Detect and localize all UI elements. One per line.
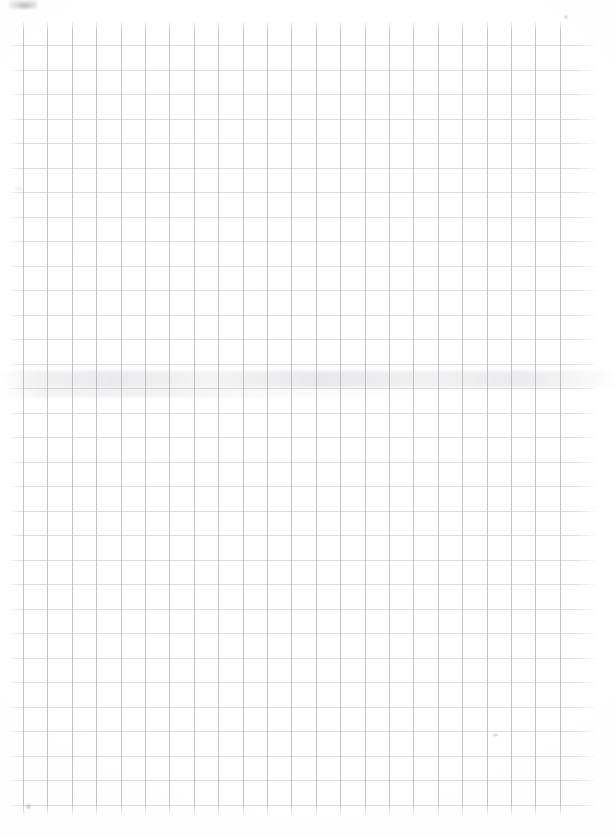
grid-line-vertical	[438, 22, 439, 815]
grid-line-horizontal	[10, 241, 595, 242]
grid-line-vertical	[487, 22, 488, 815]
grid-line-horizontal	[10, 388, 595, 389]
grid-line-vertical	[121, 22, 122, 815]
grid-line-vertical	[243, 22, 244, 815]
grid-line-horizontal	[10, 70, 595, 71]
grid-line-vertical	[23, 22, 24, 815]
grid-line-vertical	[560, 22, 561, 815]
grid-line-horizontal	[10, 45, 595, 46]
grid-line-vertical	[462, 22, 463, 815]
speck-bottom-left	[25, 803, 32, 810]
speck-top-right	[563, 14, 569, 20]
paper-surface	[0, 0, 616, 838]
grid-line-vertical	[316, 22, 317, 815]
grid-line-horizontal	[10, 143, 595, 144]
grid-line-vertical	[511, 22, 512, 815]
corner-smudge-top-left	[9, 0, 37, 9]
grid-line-horizontal	[10, 217, 595, 218]
grid-line-vertical	[145, 22, 146, 815]
grid-line-vertical	[267, 22, 268, 815]
speck-upper-left	[14, 186, 24, 191]
grid-line-vertical	[169, 22, 170, 815]
grid-line-horizontal	[10, 682, 595, 683]
grid-line-vertical	[194, 22, 195, 815]
grid-line-horizontal	[10, 94, 595, 95]
grid-line-vertical	[218, 22, 219, 815]
grid-line-horizontal	[10, 266, 595, 267]
graph-paper-grid	[0, 0, 616, 838]
grid-line-horizontal	[10, 756, 595, 757]
grid-line-horizontal	[10, 511, 595, 512]
grid-line-horizontal	[10, 731, 595, 732]
grid-line-horizontal	[10, 437, 595, 438]
grid-line-vertical	[389, 22, 390, 815]
grid-line-horizontal	[10, 290, 595, 291]
grid-line-horizontal	[10, 119, 595, 120]
grid-line-vertical	[413, 22, 414, 815]
grid-line-horizontal	[10, 707, 595, 708]
grid-line-horizontal	[10, 780, 595, 781]
grid-line-horizontal	[10, 535, 595, 536]
scan-noise-overlay	[0, 0, 616, 838]
grid-line-horizontal	[10, 486, 595, 487]
grid-line-horizontal	[10, 413, 595, 414]
grid-line-vertical	[72, 22, 73, 815]
grid-line-horizontal	[10, 168, 595, 169]
smudge-band-center	[0, 371, 616, 387]
grid-line-horizontal	[10, 315, 595, 316]
smudge-band-secondary	[0, 388, 430, 397]
grid-line-horizontal	[10, 633, 595, 634]
grid-line-vertical	[96, 22, 97, 815]
scanned-page	[0, 0, 616, 838]
grid-line-horizontal	[10, 609, 595, 610]
grid-line-vertical	[340, 22, 341, 815]
grid-line-horizontal	[10, 560, 595, 561]
grid-line-horizontal	[10, 658, 595, 659]
grid-line-horizontal	[10, 192, 595, 193]
grid-line-horizontal	[10, 364, 595, 365]
grid-line-vertical	[291, 22, 292, 815]
grid-line-horizontal	[10, 462, 595, 463]
grid-line-horizontal	[10, 584, 595, 585]
grid-line-horizontal	[10, 805, 595, 806]
grid-line-horizontal	[10, 339, 595, 340]
grid-line-vertical	[535, 22, 536, 815]
grid-line-vertical	[365, 22, 366, 815]
speck-right-lower	[492, 733, 499, 737]
grid-line-vertical	[47, 22, 48, 815]
